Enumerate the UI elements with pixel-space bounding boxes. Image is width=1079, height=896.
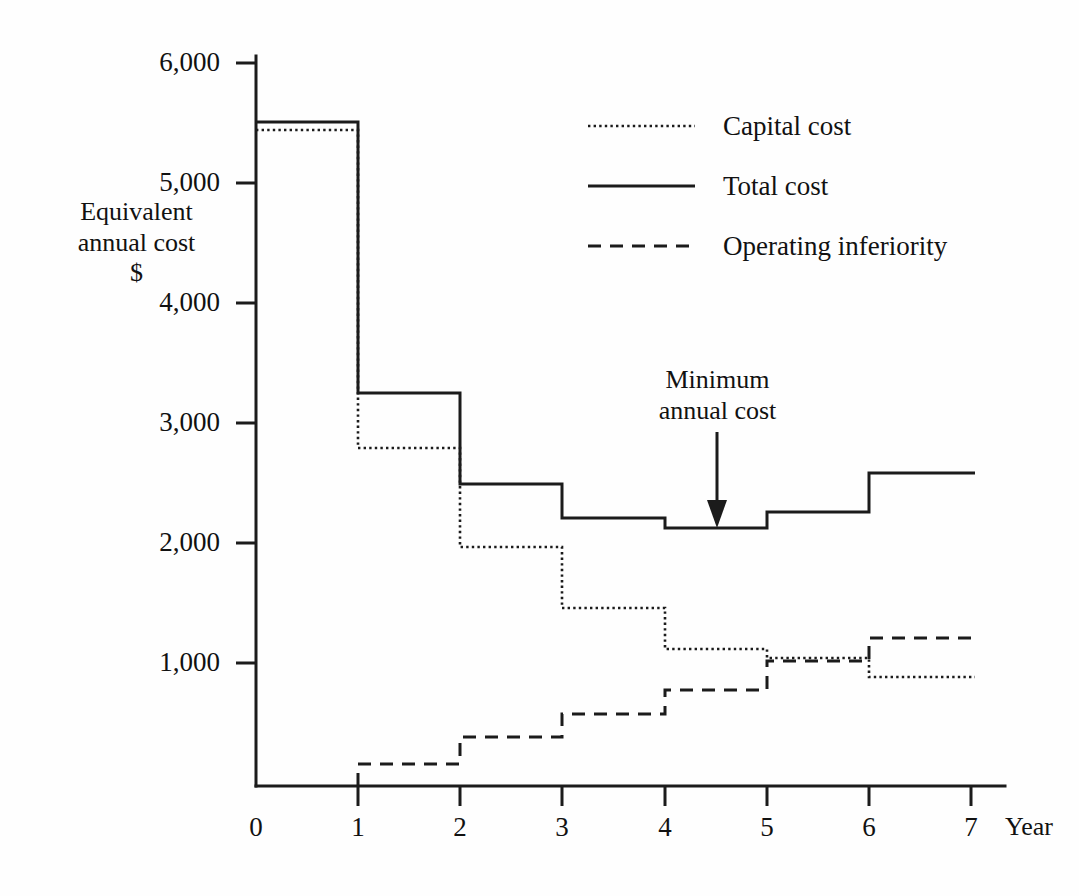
x-tick-label-1: 1 (351, 812, 365, 844)
y-axis-ticks (236, 63, 256, 663)
x-tick-label-3: 3 (555, 812, 569, 844)
legend-label-operating-inferiority: Operating inferiority (723, 231, 947, 262)
chart-plot-area (0, 0, 1079, 896)
chart-figure: 6,000 5,000 4,000 3,000 2,000 1,000 0 1 … (0, 0, 1079, 896)
y-tick-label-4000: 4,000 (80, 287, 220, 319)
annotation-line-1: Minimum (620, 365, 815, 396)
x-axis-title: Year (1005, 812, 1053, 843)
annotation-line-2: annual cost (620, 396, 815, 427)
y-axis-title-line-2: annual cost (44, 228, 229, 259)
x-axis-ticks (358, 786, 971, 806)
y-axis-title-line-1: Equivalent (44, 197, 229, 228)
y-tick-label-3000: 3,000 (80, 407, 220, 439)
minimum-annual-cost-arrow (707, 432, 727, 528)
x-tick-label-4: 4 (658, 812, 672, 844)
x-tick-label-5: 5 (760, 812, 774, 844)
x-tick-label-2: 2 (453, 812, 467, 844)
legend-label-capital-cost: Capital cost (723, 111, 851, 142)
series-operating-inferiority (358, 638, 975, 786)
y-axis-title: Equivalent annual cost $ (44, 197, 229, 289)
y-axis-title-line-3: $ (44, 258, 229, 289)
y-tick-label-6000: 6,000 (80, 47, 220, 79)
x-tick-label-0: 0 (249, 812, 263, 844)
y-tick-label-5000: 5,000 (80, 167, 220, 199)
x-tick-label-7: 7 (964, 812, 978, 844)
series-total-cost (256, 122, 975, 528)
y-tick-label-2000: 2,000 (80, 527, 220, 559)
y-tick-label-1000: 1,000 (80, 647, 220, 679)
x-tick-label-6: 6 (862, 812, 876, 844)
series-capital-cost (256, 130, 975, 677)
minimum-annual-cost-annotation: Minimum annual cost (620, 365, 815, 426)
legend-label-total-cost: Total cost (723, 171, 828, 202)
